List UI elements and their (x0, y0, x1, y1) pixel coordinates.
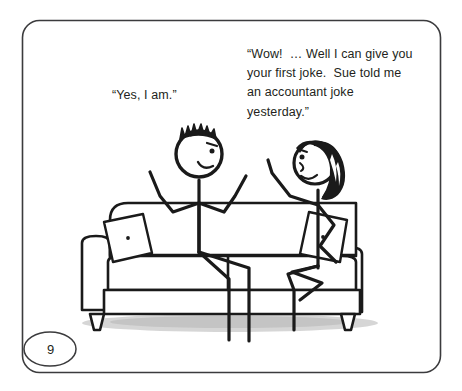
couch-base (104, 290, 360, 314)
couch-left-cushion-pillow (104, 214, 152, 262)
couch-leg-left (90, 314, 104, 330)
boy-eye (210, 149, 215, 154)
couch-leg-right (341, 314, 355, 330)
boy-dialogue: “Yes, I am.” (112, 88, 177, 103)
comic-page: “Yes, I am.” “Wow! … Well I can give you… (0, 0, 462, 391)
woman-eye (300, 155, 305, 160)
woman-dialogue: “Wow! … Well I can give you your first j… (247, 45, 415, 122)
page-number: 9 (24, 332, 77, 366)
couch-right-cushion-pillow (300, 212, 347, 262)
pillow-tuft-left (126, 236, 130, 240)
